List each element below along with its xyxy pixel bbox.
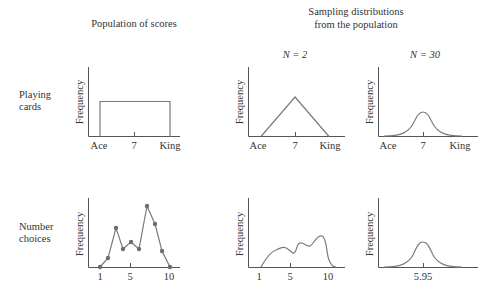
number-choices-n2 [261, 236, 336, 267]
axes-c [379, 67, 479, 137]
uniform-distribution [100, 102, 170, 137]
triangular-distribution [261, 97, 329, 137]
axes-f [379, 198, 479, 268]
axes-e [249, 198, 346, 268]
axes-b [249, 67, 346, 137]
chart-canvas [0, 0, 484, 290]
data-markers [98, 204, 172, 269]
number-choices-population [100, 206, 170, 267]
axes-d [89, 198, 181, 268]
